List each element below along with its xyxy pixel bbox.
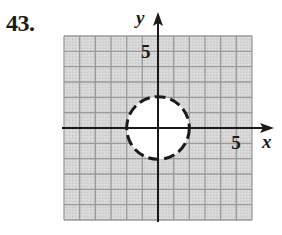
coordinate-plane: y x 5 5	[0, 0, 282, 235]
x-axis-label: x	[261, 131, 272, 152]
y-tick-label-5: 5	[141, 41, 151, 62]
y-axis-label: y	[134, 7, 145, 28]
x-tick-label-5: 5	[231, 132, 241, 153]
